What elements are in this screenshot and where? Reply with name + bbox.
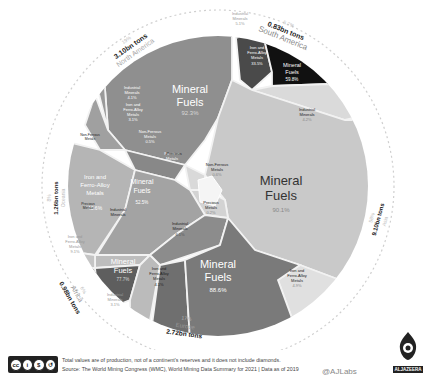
svg-text:0.5%: 0.5% — [145, 139, 155, 144]
svg-text:88.6%: 88.6% — [209, 287, 227, 293]
svg-text:4.2%: 4.2% — [302, 117, 312, 122]
svg-text:33.5%: 33.5% — [251, 61, 263, 66]
svg-text:0.2%: 0.2% — [206, 210, 216, 215]
svg-text:77.7%: 77.7% — [117, 277, 130, 282]
by-icon: i — [22, 359, 34, 371]
cell-sa-iron[interactable] — [236, 30, 272, 90]
aljazeera-logo-icon — [395, 330, 421, 362]
svg-text:5.1%: 5.1% — [235, 21, 245, 26]
svg-text:Metals: Metals — [153, 276, 165, 281]
source-text: Source: The World Mining Congress (WMC),… — [62, 366, 299, 372]
svg-text:4.1%: 4.1% — [154, 282, 164, 287]
svg-text:Asia: Asia — [381, 216, 389, 227]
svg-text:Mineral: Mineral — [111, 257, 136, 266]
footnote: Total values are of production, not of a… — [62, 357, 281, 363]
svg-text:Mineral: Mineral — [131, 178, 154, 185]
svg-text:1.26bn tons: 1.26bn tons — [53, 181, 59, 215]
creative-commons-badge[interactable]: cc i $ ↺ — [8, 356, 58, 373]
svg-text:4.1%: 4.1% — [127, 95, 137, 100]
svg-text:Fuels: Fuels — [265, 188, 297, 203]
svg-text:52.5%: 52.5% — [136, 200, 149, 205]
svg-text:Fuels: Fuels — [114, 266, 133, 275]
svg-text:90.1%: 90.1% — [272, 207, 290, 213]
svg-text:Mineral: Mineral — [283, 62, 301, 68]
svg-text:Minerals: Minerals — [110, 212, 125, 217]
social-handle: @AJLabs — [322, 367, 357, 376]
svg-text:3.1%: 3.1% — [110, 302, 120, 307]
svg-text:Fuels: Fuels — [205, 271, 232, 283]
svg-text:4.9%: 4.9% — [292, 283, 302, 288]
cc-icon: cc — [10, 359, 22, 371]
svg-text:Minerals: Minerals — [172, 226, 187, 231]
svg-text:9.1%: 9.1% — [70, 249, 80, 254]
svg-text:59.8%: 59.8% — [286, 77, 299, 82]
brand-wordmark: ALJAZEERA — [393, 366, 423, 373]
svg-text:Precious: Precious — [166, 151, 182, 156]
svg-text:Metals: Metals — [166, 156, 178, 161]
svg-text:Metals: Metals — [251, 55, 263, 60]
footer: cc i $ ↺ Total values are of production,… — [4, 355, 434, 389]
svg-text:Oceania: Oceania — [60, 188, 66, 207]
svg-text:3.1%: 3.1% — [128, 117, 138, 122]
svg-text:92.3%: 92.3% — [181, 110, 199, 116]
svg-text:Mineral: Mineral — [172, 83, 208, 95]
svg-text:8%: 8% — [46, 194, 52, 202]
svg-text:Iron and: Iron and — [84, 174, 106, 180]
svg-text:6.1%: 6.1% — [175, 232, 185, 237]
svg-text:Mineral: Mineral — [200, 258, 236, 270]
nc-icon: $ — [33, 359, 45, 371]
svg-text:Metals: Metals — [85, 137, 96, 141]
svg-text:Mineral: Mineral — [260, 173, 303, 188]
svg-text:Fuels: Fuels — [285, 69, 299, 75]
svg-text:0.6%: 0.6% — [212, 172, 222, 177]
label-oceania: 8% 1.26bn tons Oceania — [46, 181, 66, 215]
svg-text:Fuels: Fuels — [177, 96, 204, 108]
voronoi-chart: Mineral Fuels 92.3% Industrial Minerals … — [0, 0, 434, 350]
svg-text:Fuels: Fuels — [133, 187, 151, 194]
svg-text:Ferro-Alloy: Ferro-Alloy — [80, 182, 109, 188]
sa-icon: ↺ — [45, 359, 57, 371]
svg-text:Metals: Metals — [86, 190, 104, 196]
svg-text:Metals: Metals — [83, 206, 94, 210]
label-africa: 6% Africa 0.98bn tons — [58, 273, 95, 316]
